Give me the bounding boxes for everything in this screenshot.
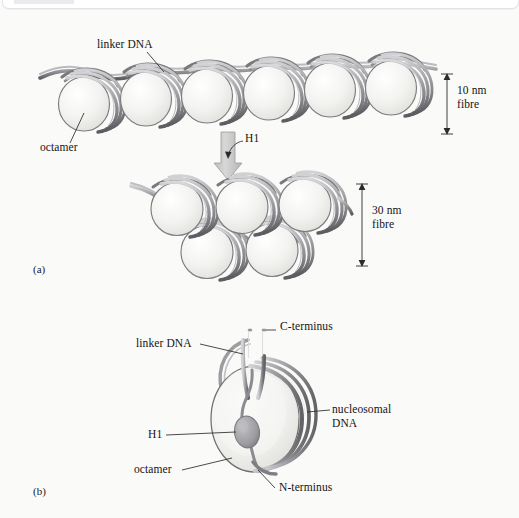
panel-label-b: (b): [33, 485, 46, 497]
n-terminus-label: N-terminus: [279, 481, 332, 495]
nucleosome-5: [305, 55, 372, 118]
linker-dna-label-b: linker DNA: [136, 337, 192, 351]
fibre-10nm-group: [40, 52, 436, 143]
chromatin-diagram-artwork: [0, 0, 519, 518]
nucleosome-upper-1: [151, 176, 218, 237]
nucleosome-detail-group: [166, 328, 330, 488]
octamer-label-b: octamer: [134, 463, 172, 477]
h1-label-b: H1: [148, 428, 162, 442]
figure-canvas: linker DNA octamer H1 10 nm fibre 30 nm …: [0, 0, 519, 518]
nucleosome-upper-3: [279, 172, 346, 233]
nucleosomal-dna-label-line2: DNA: [332, 417, 357, 431]
octamer-leader-b: [182, 458, 232, 470]
dimension-10nm-line2: fibre: [457, 98, 479, 112]
fibre-30nm-group: [131, 172, 352, 280]
dimension-30nm-group: [356, 183, 368, 267]
dimension-30nm-line2: fibre: [372, 218, 394, 232]
h1-label-a: H1: [245, 132, 259, 146]
c-terminus-label: C-terminus: [280, 320, 333, 334]
nucleosomal-dna-label: nucleosomal: [332, 403, 391, 417]
dimension-10nm-group: [441, 73, 453, 135]
dimension-30nm-line1: 30 nm: [372, 204, 402, 218]
dimension-10nm-line1: 10 nm: [457, 84, 487, 98]
nucleosome-upper-2: [216, 174, 283, 235]
linker-dna-label-a: linker DNA: [97, 38, 153, 52]
panel-label-a: (a): [33, 263, 45, 275]
octamer-label-a: octamer: [40, 141, 78, 155]
